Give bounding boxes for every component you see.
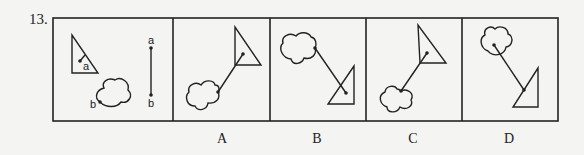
option-d-triangle bbox=[513, 68, 538, 107]
option-d-cloud bbox=[481, 27, 512, 55]
option-c-triangle bbox=[418, 25, 446, 63]
question-figure: 13. a b a b bbox=[0, 0, 584, 155]
stem-label-b-cloud: b bbox=[90, 98, 96, 110]
option-d-label[interactable]: D bbox=[499, 131, 519, 147]
stem-segment-end-a bbox=[149, 46, 153, 50]
option-c-connector bbox=[401, 53, 427, 91]
option-a-triangle-point bbox=[241, 52, 245, 56]
option-a-figure bbox=[187, 27, 261, 110]
option-a-connector bbox=[218, 54, 243, 92]
stem-label-b-segment: b bbox=[148, 97, 154, 109]
stem-label-a-triangle: a bbox=[83, 60, 90, 72]
option-c-label[interactable]: C bbox=[403, 131, 423, 147]
option-b-cloud bbox=[281, 33, 316, 64]
option-c-cloud bbox=[380, 86, 412, 112]
stem-label-a-segment: a bbox=[148, 34, 155, 46]
option-b-connector bbox=[315, 48, 346, 93]
option-a-cloud bbox=[187, 81, 219, 110]
option-c-figure bbox=[380, 25, 446, 112]
option-b-cloud-point bbox=[313, 46, 317, 50]
option-b-label[interactable]: B bbox=[307, 131, 327, 147]
stem-cloud-point-b bbox=[98, 100, 102, 104]
option-d-triangle-point bbox=[522, 88, 526, 92]
option-d-figure bbox=[481, 27, 538, 107]
stem-triangle-point-a bbox=[78, 59, 82, 63]
option-c-triangle-point bbox=[425, 51, 429, 55]
option-d-connector bbox=[494, 45, 524, 90]
option-a-label[interactable]: A bbox=[212, 131, 232, 147]
option-b-triangle-point bbox=[344, 91, 348, 95]
diagram-canvas: a b a b bbox=[0, 0, 584, 155]
option-b-figure bbox=[281, 33, 354, 104]
